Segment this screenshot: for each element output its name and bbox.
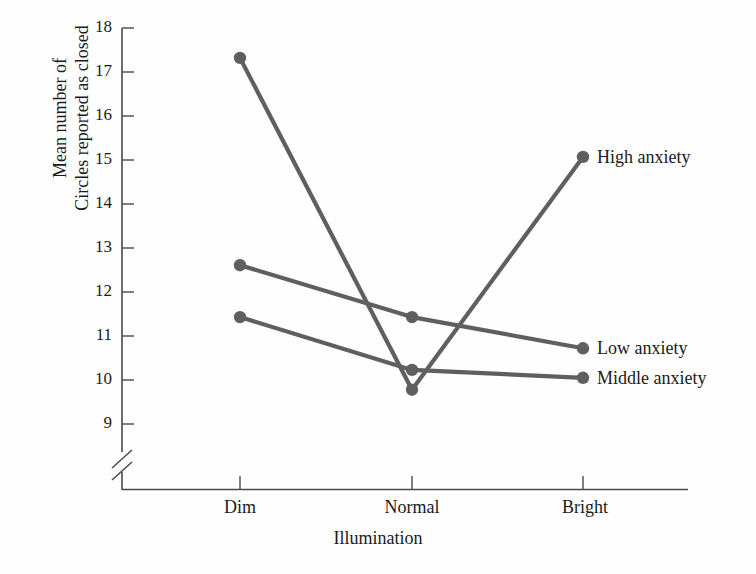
series-label-high-anxiety: High anxiety [597,147,690,168]
x-tick-label-bright: Bright [530,497,640,518]
y-axis-title-line-2: Circles reported as closed [72,25,94,210]
chart-figure: 18 17 16 15 14 13 12 11 10 9 Dim Normal … [0,0,756,574]
series-high-anxiety [234,52,589,396]
y-tick-label-9: 9 [62,413,112,433]
y-axis-title-line-1: Mean number of [50,58,72,178]
x-axis-title: Illumination [0,528,756,549]
x-tick-label-dim: Dim [190,497,290,518]
plot-area [0,0,756,574]
y-tick-label-11: 11 [62,325,112,345]
y-tick-marks [122,28,134,424]
series-low-anxiety [234,259,589,354]
y-tick-label-10: 10 [62,369,112,389]
y-axis-title: Mean number of Circles reported as close… [44,0,100,318]
x-tick-label-normal: Normal [357,497,467,518]
series-label-middle-anxiety: Middle anxiety [597,368,706,389]
x-tick-marks [240,476,583,489]
series-label-low-anxiety: Low anxiety [597,338,687,359]
